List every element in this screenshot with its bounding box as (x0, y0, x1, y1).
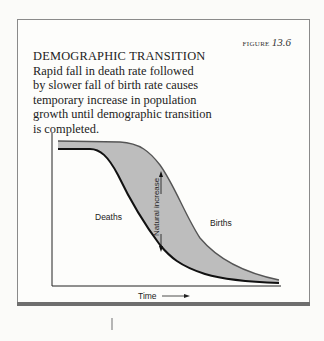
deaths-label: Deaths (95, 212, 122, 222)
smudge-mark (111, 318, 113, 330)
natural-increase-area (58, 141, 279, 283)
births-label: Births (210, 218, 232, 228)
demographic-transition-chart: Deaths Births Natural increase Time (0, 0, 324, 341)
arrow-right-icon (184, 294, 190, 298)
x-axis-label: Time (138, 291, 157, 301)
svg-text:Natural increase: Natural increase (152, 177, 161, 236)
natural-increase-label: Natural increase (152, 177, 161, 236)
